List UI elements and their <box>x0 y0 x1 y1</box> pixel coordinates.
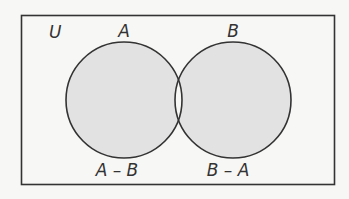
b-minus-a-label: B – A <box>207 160 250 180</box>
set-a-label: A <box>117 21 130 41</box>
universe-label: U <box>49 22 62 42</box>
a-minus-b-label: A – B <box>95 160 139 180</box>
venn-diagram: U A B A – B B – A <box>0 0 349 199</box>
set-b-label: B <box>227 21 239 41</box>
